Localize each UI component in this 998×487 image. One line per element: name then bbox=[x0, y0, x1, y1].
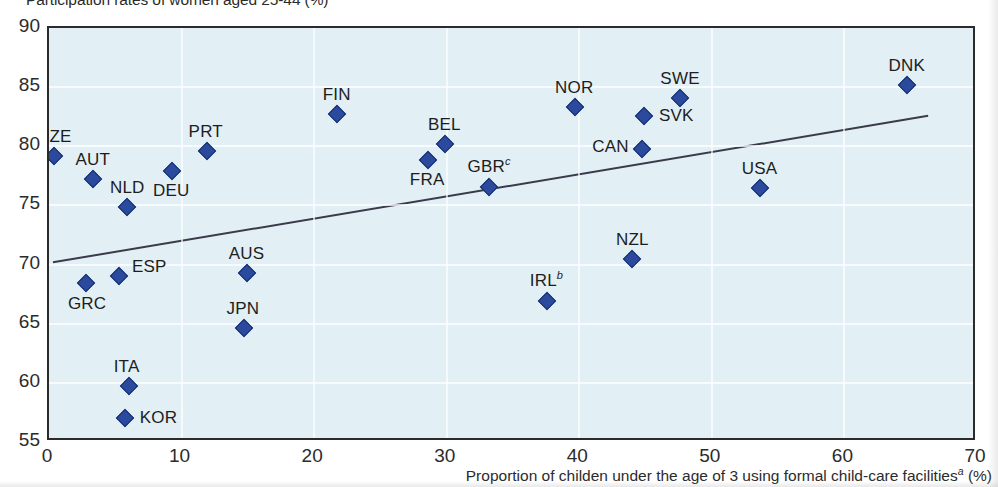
y-tick-label: 90 bbox=[0, 15, 40, 37]
data-point-irl[interactable] bbox=[538, 292, 556, 310]
gridline-vertical bbox=[313, 28, 315, 438]
y-tick-label: 60 bbox=[0, 370, 40, 392]
gridline-vertical bbox=[446, 28, 448, 438]
data-point-label-nor: NOR bbox=[555, 78, 593, 98]
data-point-dnk[interactable] bbox=[898, 76, 916, 94]
data-point-bel[interactable] bbox=[436, 135, 454, 153]
gridline-vertical bbox=[711, 28, 713, 438]
figure-scatter-plot: Participation rates of women aged 25-44 … bbox=[0, 0, 998, 487]
data-point-kor[interactable] bbox=[115, 409, 133, 427]
plot-inner: CZEGRCAUTESPNLDKORITADEUPRTJPNAUSFINFRAB… bbox=[49, 28, 973, 438]
data-point-cze[interactable] bbox=[47, 147, 63, 165]
y-tick-label: 85 bbox=[0, 74, 40, 96]
gridline-horizontal bbox=[49, 145, 973, 147]
scan-edge-bottom bbox=[0, 481, 998, 487]
x-tick-label: 20 bbox=[302, 445, 323, 467]
data-point-nor[interactable] bbox=[566, 98, 584, 116]
y-tick-label: 70 bbox=[0, 252, 40, 274]
x-tick-label: 10 bbox=[169, 445, 190, 467]
data-point-ita[interactable] bbox=[119, 377, 137, 395]
data-point-fra[interactable] bbox=[419, 151, 437, 169]
x-tick-label: 0 bbox=[42, 445, 53, 467]
x-tick-label: 40 bbox=[567, 445, 588, 467]
data-point-label-gbr: GBRc bbox=[468, 157, 511, 177]
gridline-horizontal bbox=[49, 323, 973, 325]
data-point-label-can: CAN bbox=[592, 137, 629, 157]
y-tick-label: 65 bbox=[0, 311, 40, 333]
plot-area: CZEGRCAUTESPNLDKORITADEUPRTJPNAUSFINFRAB… bbox=[47, 26, 975, 440]
data-point-label-nld: NLD bbox=[110, 178, 145, 198]
data-point-esp[interactable] bbox=[110, 267, 128, 285]
data-point-aut[interactable] bbox=[84, 170, 102, 188]
gridline-vertical bbox=[843, 28, 845, 438]
x-tick-label: 50 bbox=[699, 445, 720, 467]
scan-edge-right bbox=[988, 0, 998, 487]
data-point-label-jpn: JPN bbox=[227, 299, 260, 319]
data-point-label-aut: AUT bbox=[75, 150, 110, 170]
data-point-gbr[interactable] bbox=[480, 177, 498, 195]
data-point-label-nzl: NZL bbox=[616, 230, 649, 250]
data-point-label-kor: KOR bbox=[140, 408, 177, 428]
data-point-label-fra: FRA bbox=[410, 170, 445, 190]
y-tick-label: 55 bbox=[0, 429, 40, 451]
chart-title: Participation rates of women aged 25-44 … bbox=[26, 0, 328, 9]
gridline-horizontal bbox=[49, 204, 973, 206]
data-point-usa[interactable] bbox=[750, 178, 768, 196]
data-point-label-usa: USA bbox=[742, 159, 778, 179]
x-axis-label-footnote: a bbox=[958, 465, 964, 477]
data-point-label-deu: DEU bbox=[153, 181, 190, 201]
data-point-label-aus: AUS bbox=[229, 244, 265, 264]
data-point-label-ita: ITA bbox=[114, 357, 140, 377]
data-point-grc[interactable] bbox=[77, 274, 95, 292]
data-point-deu[interactable] bbox=[163, 162, 181, 180]
data-point-swe[interactable] bbox=[671, 89, 689, 107]
x-tick-label: 70 bbox=[964, 445, 985, 467]
data-point-nld[interactable] bbox=[118, 197, 136, 215]
data-point-label-esp: ESP bbox=[132, 257, 167, 277]
data-point-label-swe: SWE bbox=[660, 69, 699, 89]
data-point-label-grc: GRC bbox=[68, 294, 106, 314]
data-point-svk[interactable] bbox=[635, 106, 653, 124]
trendline bbox=[49, 28, 973, 438]
data-point-can[interactable] bbox=[632, 139, 650, 157]
footnote-marker: b bbox=[557, 270, 563, 282]
footnote-marker: c bbox=[505, 155, 511, 167]
data-point-label-irl: IRLb bbox=[530, 271, 563, 291]
data-point-fin[interactable] bbox=[327, 105, 345, 123]
x-tick-label: 60 bbox=[832, 445, 853, 467]
gridline-vertical bbox=[181, 28, 183, 438]
data-point-aus[interactable] bbox=[237, 264, 255, 282]
data-point-label-cze: CZE bbox=[47, 127, 72, 147]
gridline-horizontal bbox=[49, 86, 973, 88]
gridline-horizontal bbox=[49, 264, 973, 266]
data-point-label-fin: FIN bbox=[323, 85, 351, 105]
gridline-horizontal bbox=[49, 382, 973, 384]
x-tick-label: 30 bbox=[434, 445, 455, 467]
data-point-label-bel: BEL bbox=[428, 115, 461, 135]
data-point-label-dnk: DNK bbox=[888, 56, 925, 76]
y-tick-label: 75 bbox=[0, 192, 40, 214]
y-tick-label: 80 bbox=[0, 133, 40, 155]
data-point-label-svk: SVK bbox=[659, 106, 694, 126]
data-point-label-prt: PRT bbox=[189, 122, 223, 142]
